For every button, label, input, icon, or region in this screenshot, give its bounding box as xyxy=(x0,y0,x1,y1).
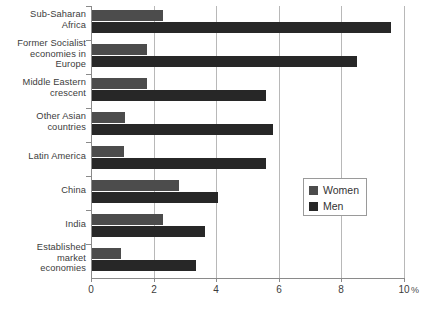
gridline-4 xyxy=(216,6,217,278)
bar-men-3 xyxy=(91,124,273,135)
legend-swatch-men-icon xyxy=(309,202,318,211)
legend-label-women: Women xyxy=(323,185,359,196)
x-tick-6 xyxy=(279,278,280,282)
category-label-line: Established xyxy=(37,242,86,252)
y-tick-1 xyxy=(86,40,91,41)
category-label-line: Middle Eastern xyxy=(23,77,86,87)
category-label-line: economies in xyxy=(30,49,86,59)
bar-women-5 xyxy=(91,180,179,191)
y-tick-0 xyxy=(86,6,91,7)
plot-area xyxy=(91,6,404,278)
y-tick-2 xyxy=(86,74,91,75)
bar-men-5 xyxy=(91,192,218,203)
legend-label-men: Men xyxy=(323,201,343,212)
bar-women-2 xyxy=(91,78,147,89)
legend-swatch-women-icon xyxy=(309,186,318,195)
y-tick-4 xyxy=(86,142,91,143)
bar-men-2 xyxy=(91,90,266,101)
x-tick-label-4: 4 xyxy=(201,284,231,295)
bar-chart: Sub-SaharanAfricaFormer Socialisteconomi… xyxy=(0,0,431,309)
category-label-line: market xyxy=(57,253,86,263)
x-tick-label-10: 10 xyxy=(389,284,419,295)
gridline-8 xyxy=(341,6,342,278)
bar-women-1 xyxy=(91,44,147,55)
bar-women-0 xyxy=(91,10,163,21)
category-label-6: India xyxy=(0,219,86,230)
category-label-1: Former Socialisteconomies inEurope xyxy=(0,38,86,70)
bar-men-6 xyxy=(91,226,205,237)
category-axis: Sub-SaharanAfricaFormer Socialisteconomi… xyxy=(0,6,86,278)
legend-item-women[interactable]: Women xyxy=(309,183,362,197)
category-label-line: China xyxy=(61,185,86,195)
category-label-7: Establishedmarketeconomies xyxy=(0,242,86,274)
x-tick-8 xyxy=(341,278,342,282)
category-label-line: economies xyxy=(40,263,86,273)
x-tick-label-8: 8 xyxy=(326,284,356,295)
category-label-2: Middle Easterncrescent xyxy=(0,77,86,98)
category-label-0: Sub-SaharanAfrica xyxy=(0,9,86,30)
bar-men-0 xyxy=(91,22,391,33)
category-label-line: Sub-Saharan xyxy=(30,9,86,19)
category-label-3: Other Asiancountries xyxy=(0,111,86,132)
bar-women-7 xyxy=(91,248,121,259)
y-tick-6 xyxy=(86,210,91,211)
x-tick-label-2: 2 xyxy=(139,284,169,295)
x-tick-2 xyxy=(154,278,155,282)
x-tick-10 xyxy=(404,278,405,282)
category-label-line: crescent xyxy=(50,88,86,98)
chart-legend: Women Men xyxy=(303,178,367,216)
gridline-2 xyxy=(154,6,155,278)
y-axis-line xyxy=(91,6,92,278)
legend-item-men[interactable]: Men xyxy=(309,199,362,213)
category-label-line: Latin America xyxy=(28,151,86,161)
category-label-line: Former Socialist xyxy=(17,38,86,48)
bar-women-6 xyxy=(91,214,163,225)
bar-men-4 xyxy=(91,158,266,169)
y-tick-5 xyxy=(86,176,91,177)
x-tick-label-0: 0 xyxy=(76,284,106,295)
y-tick-3 xyxy=(86,108,91,109)
y-tick-7 xyxy=(86,244,91,245)
bar-men-1 xyxy=(91,56,357,67)
x-tick-label-6: 6 xyxy=(264,284,294,295)
bar-women-4 xyxy=(91,146,124,157)
x-axis-line xyxy=(91,278,404,279)
x-tick-4 xyxy=(216,278,217,282)
x-tick-0 xyxy=(91,278,92,282)
category-label-line: Europe xyxy=(55,59,86,69)
category-label-line: India xyxy=(65,219,86,229)
bar-women-3 xyxy=(91,112,125,123)
gridline-10 xyxy=(404,6,405,278)
category-label-5: China xyxy=(0,185,86,196)
category-label-line: Other Asian xyxy=(36,111,86,121)
category-label-line: Africa xyxy=(62,20,86,30)
gridline-6 xyxy=(279,6,280,278)
category-label-4: Latin America xyxy=(0,151,86,162)
category-label-line: countries xyxy=(47,122,86,132)
bar-men-7 xyxy=(91,260,196,271)
